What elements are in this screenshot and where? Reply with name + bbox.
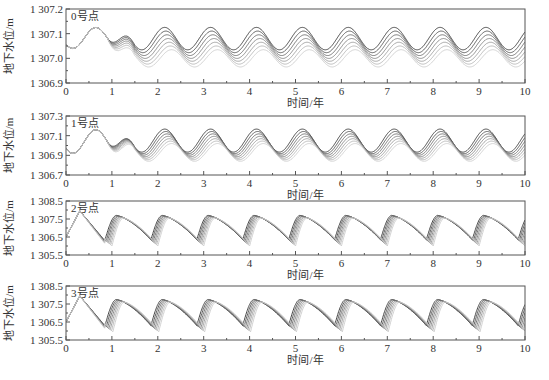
x-tick-label: 1	[109, 342, 115, 354]
x-tick-label: 8	[430, 342, 436, 354]
series-line	[66, 296, 525, 326]
y-tick-label: 1 305.5	[30, 334, 64, 346]
x-tick-label: 5	[293, 342, 299, 354]
y-tick-label: 1 306.5	[30, 231, 64, 243]
panel-3: 0123456789101 308.51 307.51 306.51 305.5…	[2, 280, 531, 366]
y-tick-label: 1 307.1	[30, 28, 63, 40]
x-tick-label: 0	[63, 342, 69, 354]
x-tick-label: 9	[476, 177, 482, 189]
x-tick-label: 6	[339, 85, 345, 97]
x-tick-label: 4	[247, 177, 253, 189]
panel-0: 0123456789101 307.21 307.11 307.01 306.9…	[2, 3, 531, 109]
panel-label: 3号点	[71, 287, 99, 299]
x-tick-label: 6	[339, 177, 345, 189]
x-tick-label: 7	[385, 85, 391, 97]
x-tick-label: 10	[520, 85, 532, 97]
x-tick-label: 7	[385, 342, 391, 354]
y-tick-label: 1 308.5	[30, 280, 64, 292]
panel-2: 0123456789101 308.51 307.51 306.51 305.5…	[2, 195, 531, 281]
panel-1: 0123456789101 307.31 307.11 306.91 306.7…	[2, 110, 531, 201]
series-group	[66, 129, 525, 161]
x-tick-label: 9	[476, 342, 482, 354]
x-tick-label: 7	[385, 257, 391, 269]
x-tick-label: 10	[520, 177, 532, 189]
panel-label: 0号点	[71, 10, 99, 22]
x-axis-title: 时间/年	[287, 188, 323, 201]
x-tick-label: 2	[155, 342, 161, 354]
x-tick-label: 5	[293, 257, 299, 269]
x-tick-label: 6	[339, 342, 345, 354]
x-tick-label: 3	[201, 85, 207, 97]
x-tick-label: 6	[339, 257, 345, 269]
x-tick-label: 1	[109, 257, 115, 269]
x-tick-label: 2	[155, 85, 161, 97]
y-tick-label: 1 307.1	[30, 130, 63, 142]
y-axis-title: 地下水位/m	[2, 117, 15, 173]
x-tick-label: 5	[293, 177, 299, 189]
x-tick-label: 3	[201, 177, 207, 189]
panel-label: 2号点	[71, 202, 99, 214]
x-tick-label: 1	[109, 177, 115, 189]
y-axis-title: 地下水位/m	[2, 18, 15, 74]
x-tick-label: 0	[63, 257, 69, 269]
y-tick-label: 1 305.5	[30, 249, 64, 261]
x-tick-label: 10	[520, 257, 532, 269]
x-tick-label: 9	[476, 85, 482, 97]
y-tick-label: 1 307.5	[30, 298, 64, 310]
x-tick-label: 3	[201, 257, 207, 269]
x-tick-label: 2	[155, 177, 161, 189]
x-tick-label: 8	[430, 85, 436, 97]
y-tick-label: 1 307.3	[30, 110, 64, 122]
y-tick-label: 1 306.5	[30, 316, 64, 328]
x-tick-label: 9	[476, 257, 482, 269]
x-tick-label: 5	[293, 85, 299, 97]
series-group	[66, 296, 525, 332]
x-tick-label: 7	[385, 177, 391, 189]
x-tick-label: 2	[155, 257, 161, 269]
y-tick-label: 1 307.2	[30, 3, 63, 15]
y-tick-label: 1 306.9	[30, 149, 64, 161]
series-group	[66, 211, 525, 246]
x-axis-title: 时间/年	[287, 268, 323, 281]
x-tick-label: 4	[247, 342, 253, 354]
figure: 0123456789101 307.21 307.11 307.01 306.9…	[0, 0, 549, 380]
y-tick-label: 1 306.9	[30, 77, 64, 89]
y-axis-title: 地下水位/m	[2, 285, 15, 341]
x-tick-label: 8	[430, 177, 436, 189]
x-tick-label: 1	[109, 85, 115, 97]
x-tick-label: 0	[63, 177, 69, 189]
x-tick-label: 4	[247, 85, 253, 97]
x-tick-label: 4	[247, 257, 253, 269]
series-group	[66, 27, 525, 67]
y-tick-label: 1 306.7	[30, 169, 64, 181]
x-axis-title: 时间/年	[287, 353, 323, 366]
y-tick-label: 1 308.5	[30, 195, 64, 207]
x-tick-label: 10	[520, 342, 532, 354]
x-tick-label: 0	[63, 85, 69, 97]
y-tick-label: 1 307.0	[30, 52, 64, 64]
y-axis-title: 地下水位/m	[2, 200, 15, 256]
x-tick-label: 3	[201, 342, 207, 354]
y-tick-label: 1 307.5	[30, 213, 64, 225]
x-axis-title: 时间/年	[287, 96, 323, 109]
x-tick-label: 8	[430, 257, 436, 269]
panel-label: 1号点	[71, 117, 99, 129]
